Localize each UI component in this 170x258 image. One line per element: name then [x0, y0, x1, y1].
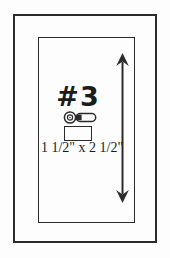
- vertical-double-arrow-icon: [112, 50, 133, 206]
- plate-rectangle: [64, 126, 92, 141]
- diagram-canvas: #3 1 1/2" x 2 1/2": [0, 0, 170, 258]
- part-number-label: #3: [52, 83, 104, 110]
- knob-icon: [63, 110, 97, 125]
